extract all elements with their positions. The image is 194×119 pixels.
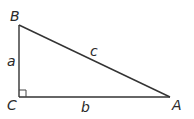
right-angle-marker-icon xyxy=(19,90,26,97)
right-triangle-diagram: B C A a b c xyxy=(0,0,194,119)
side-label-a: a xyxy=(7,53,16,69)
side-label-c: c xyxy=(90,43,98,59)
side-c-hypotenuse-line xyxy=(19,25,170,97)
side-label-b: b xyxy=(81,99,90,115)
vertex-label-b: B xyxy=(10,8,20,24)
vertex-label-c: C xyxy=(7,97,17,113)
vertex-label-a: A xyxy=(171,97,182,113)
